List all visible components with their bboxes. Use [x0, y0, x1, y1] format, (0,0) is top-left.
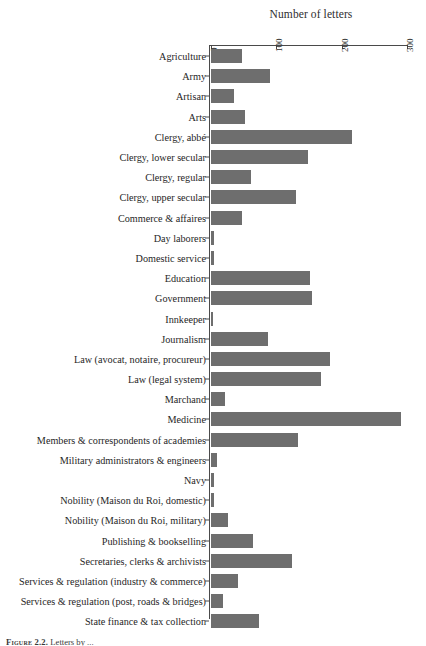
category-tick — [205, 601, 209, 602]
figure-number: Figure 2.2. — [6, 637, 48, 646]
category-tick — [205, 298, 209, 299]
bar-rows: AgricultureArmyArtisanArtsClergy, abbéCl… — [0, 46, 426, 631]
bar — [211, 493, 214, 507]
category-tick — [205, 520, 209, 521]
bar — [211, 554, 292, 568]
bar-row: Day laborers — [0, 228, 426, 248]
bar — [211, 271, 310, 285]
category-label: Navy — [184, 475, 206, 486]
bar-row: Journalism — [0, 329, 426, 349]
category-label: Publishing & bookselling — [102, 535, 206, 546]
category-tick — [205, 560, 209, 561]
category-label: Law (avocat, notaire, procureur) — [74, 353, 206, 364]
category-tick — [205, 399, 209, 400]
bar-row: Artisan — [0, 86, 426, 106]
bar — [211, 211, 242, 225]
bar — [211, 170, 251, 184]
bar — [211, 473, 214, 487]
category-label: Marchand — [165, 394, 206, 405]
category-label: Day laborers — [154, 232, 206, 243]
bar — [211, 231, 214, 245]
category-tick — [205, 96, 209, 97]
category-tick — [205, 157, 209, 158]
bar — [211, 534, 253, 548]
bar — [211, 251, 214, 265]
bar — [211, 89, 234, 103]
bar — [211, 433, 298, 447]
bar-row: Clergy, lower secular — [0, 147, 426, 167]
category-tick — [205, 217, 209, 218]
bar — [211, 614, 259, 628]
bar — [211, 312, 213, 326]
category-tick — [205, 76, 209, 77]
category-tick — [205, 177, 209, 178]
bar — [211, 574, 238, 588]
bar-row: Agriculture — [0, 46, 426, 66]
bar-row: Publishing & bookselling — [0, 531, 426, 551]
bar — [211, 352, 330, 366]
category-label: Services & regulation (post, roads & bri… — [21, 596, 206, 607]
category-tick — [205, 257, 209, 258]
category-label: Clergy, lower secular — [119, 152, 206, 163]
category-tick — [205, 116, 209, 117]
category-label: Military administrators & engineers — [60, 454, 206, 465]
bar-row: Secretaries, clerks & archivists — [0, 551, 426, 571]
bar — [211, 291, 312, 305]
category-label: Innkeeper — [165, 313, 206, 324]
bar-row: Domestic service — [0, 248, 426, 268]
bar — [211, 69, 270, 83]
bar-row: Nobility (Maison du Roi, military) — [0, 510, 426, 530]
category-label: Education — [165, 273, 206, 284]
category-label: Clergy, abbé — [155, 131, 206, 142]
bar-row: Navy — [0, 470, 426, 490]
category-tick — [205, 480, 209, 481]
category-tick — [205, 278, 209, 279]
category-tick — [205, 338, 209, 339]
bar — [211, 130, 352, 144]
category-label: Members & correspondents of academies — [37, 434, 206, 445]
bar-row: Clergy, regular — [0, 167, 426, 187]
bar-row: Government — [0, 288, 426, 308]
category-tick — [205, 439, 209, 440]
bar — [211, 332, 268, 346]
bar-row: Innkeeper — [0, 308, 426, 328]
category-tick — [205, 318, 209, 319]
bar-row: Nobility (Maison du Roi, domestic) — [0, 490, 426, 510]
category-label: Domestic service — [136, 252, 206, 263]
category-tick — [205, 379, 209, 380]
bar — [211, 412, 401, 426]
category-tick — [205, 459, 209, 460]
category-label: Artisan — [176, 91, 206, 102]
category-label: Secretaries, clerks & archivists — [80, 555, 206, 566]
category-label: Services & regulation (industry & commer… — [19, 575, 206, 586]
bar — [211, 513, 228, 527]
figure-caption: Figure 2.2. Letters by ... — [6, 637, 94, 646]
bar — [211, 150, 308, 164]
category-tick — [205, 621, 209, 622]
category-label: Journalism — [161, 333, 206, 344]
bar — [211, 453, 217, 467]
category-tick — [205, 136, 209, 137]
category-label: Army — [182, 71, 206, 82]
category-label: State finance & tax collection — [85, 616, 206, 627]
bar-row: Commerce & affaires — [0, 208, 426, 228]
figure-caption-text: Letters by ... — [50, 637, 93, 646]
bar — [211, 372, 321, 386]
category-tick — [205, 56, 209, 57]
bar-row: Law (avocat, notaire, procureur) — [0, 349, 426, 369]
category-label: Agriculture — [159, 51, 206, 62]
category-label: Arts — [188, 111, 206, 122]
bar — [211, 392, 225, 406]
category-label: Clergy, regular — [145, 172, 206, 183]
category-tick — [205, 540, 209, 541]
category-tick — [205, 419, 209, 420]
category-tick — [205, 197, 209, 198]
category-label: Medicine — [168, 414, 206, 425]
bar — [211, 594, 223, 608]
bar-row: Clergy, upper secular — [0, 187, 426, 207]
bar-row: Military administrators & engineers — [0, 450, 426, 470]
bar-row: State finance & tax collection — [0, 611, 426, 631]
bar-row: Education — [0, 268, 426, 288]
bar-row: Law (legal system) — [0, 369, 426, 389]
